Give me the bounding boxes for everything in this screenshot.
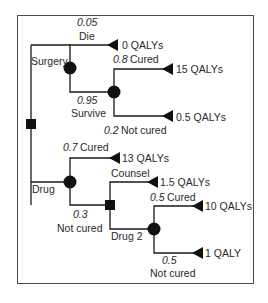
- drug2-not-cured-label: Not cured: [150, 267, 196, 279]
- decision-tree: Surgery 0.05 Die 0 QALYs 0.8 Cured 15 QA…: [0, 0, 268, 303]
- terminal-die-icon: [107, 39, 118, 51]
- terminal-drug-cured-icon: [109, 152, 120, 164]
- root-decision-node: [26, 119, 36, 129]
- drug-not-cured-branch-line: [70, 182, 110, 205]
- drug-chance-node: [64, 176, 77, 189]
- drug2-not-cured-prob: 0.5: [162, 254, 177, 266]
- cured-label: Cured: [130, 53, 159, 65]
- drug2-cured-outcome: 10 QALYs: [205, 200, 252, 212]
- terminal-not-cured-icon: [162, 110, 173, 122]
- survive-chance-node: [108, 86, 121, 99]
- die-outcome: 0 QALYs: [122, 39, 163, 51]
- die-prob: 0.05: [77, 16, 98, 28]
- survive-label: Survive: [71, 107, 106, 119]
- counsel-outcome: 1.5 QALYs: [160, 176, 210, 188]
- not-cured-label: Not cured: [121, 124, 167, 136]
- survive-branch-line: [70, 68, 114, 92]
- drug2-chance-node: [148, 223, 161, 236]
- drug-label: Drug: [32, 183, 55, 195]
- drug2-not-cured-branch-line: [154, 229, 195, 253]
- die-branch-line: [70, 45, 110, 68]
- cured-outcome: 15 QALYs: [176, 63, 223, 75]
- cured-branch-line: [114, 69, 165, 92]
- cured-prob: 0.8: [113, 53, 128, 65]
- drug2-label: Drug 2: [111, 230, 143, 242]
- drug2-cured-label: Cured: [167, 191, 196, 203]
- not-cured-outcome: 0.5 QALYs: [176, 111, 226, 123]
- counsel-branch-line: [110, 182, 150, 205]
- drug2-cured-branch-line: [154, 206, 195, 229]
- drug-not-cured-prob: 0.3: [73, 208, 88, 220]
- die-label: Die: [79, 30, 95, 42]
- drug-cured-prob: 0.7: [63, 141, 79, 153]
- terminal-drug2-not-cured-icon: [192, 247, 203, 259]
- terminal-cured-icon: [162, 63, 173, 75]
- drug2-cured-prob: 0.5: [150, 191, 165, 203]
- drug2-not-cured-outcome: 1 QALY: [205, 247, 241, 259]
- drug-cured-label: Cured: [80, 141, 109, 153]
- drug-cured-outcome: 13 QALYs: [122, 152, 169, 164]
- surgery-label: Surgery: [31, 55, 69, 67]
- counsel-label: Counsel: [111, 167, 150, 179]
- survive-prob: 0.95: [77, 94, 98, 106]
- drug2-branch-line: [110, 205, 154, 229]
- counsel-decision-node: [105, 200, 115, 210]
- not-cured-prob: 0.2: [104, 124, 119, 136]
- drug-cured-branch-line: [70, 158, 112, 182]
- drug-not-cured-label: Not cured: [57, 222, 103, 234]
- not-cured-branch-line: [114, 92, 165, 116]
